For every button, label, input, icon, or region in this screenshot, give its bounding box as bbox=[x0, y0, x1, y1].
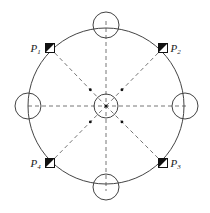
point-label: P2 bbox=[170, 42, 182, 56]
point-p1: P1 bbox=[30, 42, 55, 56]
direction-dot bbox=[89, 121, 92, 124]
direction-dot bbox=[121, 121, 124, 124]
direction-dot bbox=[89, 88, 92, 91]
point-label: P1 bbox=[30, 42, 41, 56]
center-dot bbox=[104, 104, 107, 107]
point-p2: P2 bbox=[159, 42, 182, 56]
point-p4: P4 bbox=[30, 157, 55, 171]
point-label: P3 bbox=[170, 157, 182, 171]
direction-dot bbox=[121, 88, 124, 91]
point-label: P4 bbox=[30, 157, 42, 171]
sensor-layout-diagram: P1P2P3P4 bbox=[0, 0, 210, 213]
point-p3: P3 bbox=[159, 157, 182, 171]
